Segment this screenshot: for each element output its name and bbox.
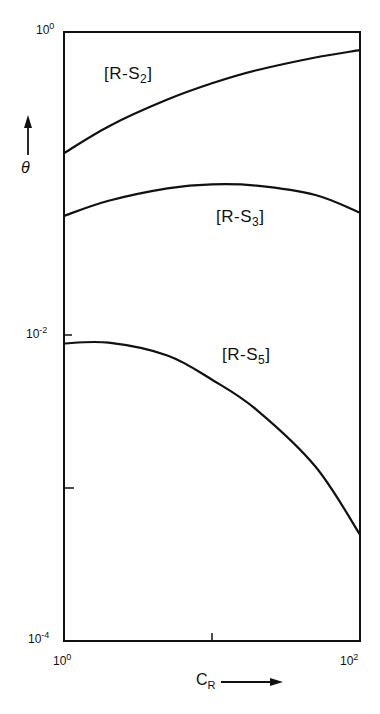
y-tick-label-1e-4: 10-4 <box>28 630 49 646</box>
curve-r-s3 <box>64 184 360 216</box>
series-label-r-s3: [R-S3] <box>216 207 264 229</box>
chart-canvas <box>0 0 380 714</box>
y-tick-label-1e0: 100 <box>36 21 54 37</box>
y-arrowhead-icon <box>24 115 32 128</box>
series-label-r-s5: [R-S5] <box>222 345 270 367</box>
series-label-r-s2: [R-S2] <box>104 64 152 86</box>
curve-r-s5 <box>64 342 360 535</box>
y-tick-label-1e-2: 10-2 <box>26 325 47 341</box>
x-axis-label: CR <box>196 671 216 691</box>
plot-frame <box>64 32 360 641</box>
x-tick-label-1e2: 102 <box>340 652 358 668</box>
x-tick-label-1e0: 100 <box>53 652 71 668</box>
y-axis-label: θ <box>21 159 30 177</box>
x-arrowhead-icon <box>270 678 283 686</box>
